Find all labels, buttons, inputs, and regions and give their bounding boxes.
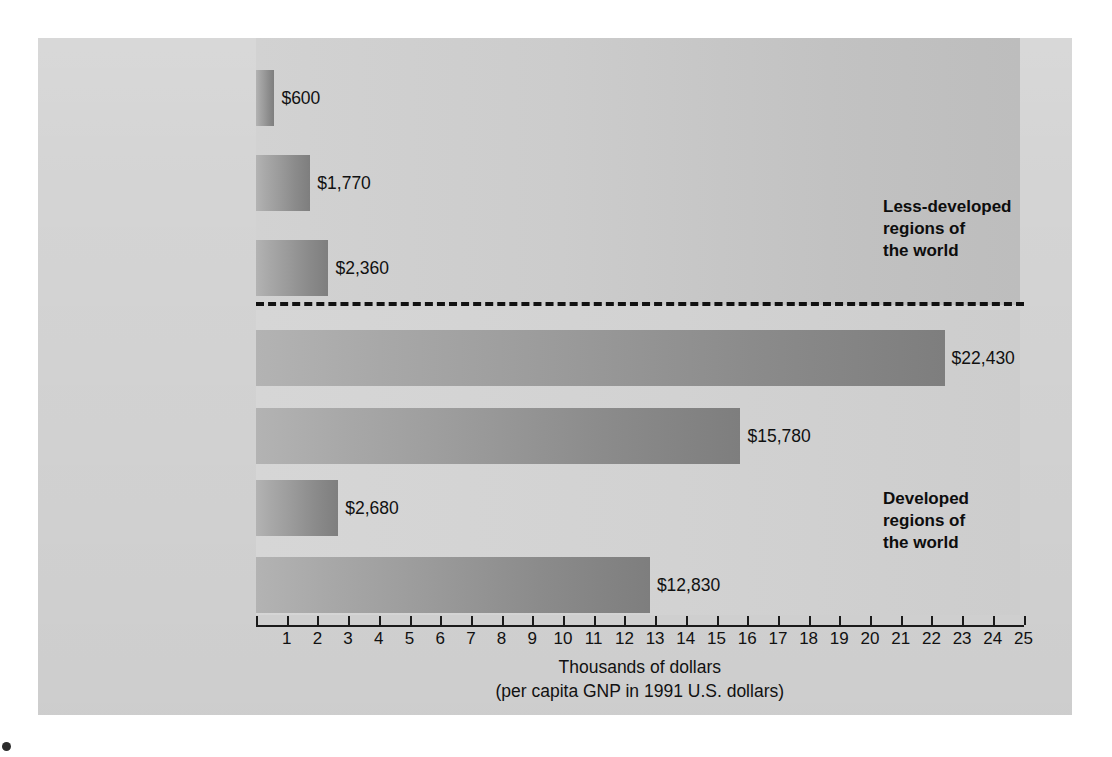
- x-axis-tick-label: 25: [1004, 629, 1044, 649]
- x-axis-tick: [287, 616, 289, 625]
- bar-value-label: $22,430: [952, 348, 1015, 369]
- x-axis-tick: [839, 616, 841, 625]
- x-axis-tick: [379, 616, 381, 625]
- x-axis-caption-line2: (per capita GNP in 1991 U.S. dollars): [256, 679, 1024, 703]
- bar-value-label: $12,830: [657, 575, 720, 596]
- x-axis-tick: [624, 616, 626, 625]
- x-axis-tick: [747, 616, 749, 625]
- x-axis-endcap-left: [256, 616, 258, 627]
- x-axis-tick: [655, 616, 657, 625]
- x-axis-tick: [717, 616, 719, 625]
- bar: [256, 480, 338, 536]
- bar-value-label: $2,360: [335, 258, 389, 279]
- x-axis-caption: Thousands of dollars (per capita GNP in …: [256, 655, 1024, 703]
- bar: [256, 70, 274, 126]
- x-axis-tick: [993, 616, 995, 625]
- bar-value-label: $2,680: [345, 498, 399, 519]
- annotation-developed: Developed regions of the world: [883, 488, 969, 554]
- chart-panel: Africa$600Asia and the Middle East$1,770…: [38, 38, 1072, 715]
- x-axis-tick: [563, 616, 565, 625]
- x-axis-tick: [410, 616, 412, 625]
- bar: [256, 240, 328, 296]
- x-axis-tick: [870, 616, 872, 625]
- x-axis-tick: [686, 616, 688, 625]
- x-axis-tick: [962, 616, 964, 625]
- plot-area: Africa$600Asia and the Middle East$1,770…: [38, 38, 1072, 715]
- x-axis-line: [256, 625, 1024, 627]
- x-axis-tick: [532, 616, 534, 625]
- bar-value-label: $1,770: [317, 173, 371, 194]
- x-axis-tick: [778, 616, 780, 625]
- bar-value-label: $15,780: [747, 426, 810, 447]
- x-axis-tick: [348, 616, 350, 625]
- bar-value-label: $600: [281, 88, 320, 109]
- x-axis-tick: [317, 616, 319, 625]
- x-axis-tick: [809, 616, 811, 625]
- x-axis-tick: [594, 616, 596, 625]
- x-axis-tick: [502, 616, 504, 625]
- x-axis-tick: [1024, 616, 1026, 625]
- bar: [256, 557, 650, 613]
- bar: [256, 408, 740, 464]
- x-axis-tick: [931, 616, 933, 625]
- region-divider-dashed-line: [256, 302, 1024, 306]
- x-axis-tick: [901, 616, 903, 625]
- x-axis-tick: [440, 616, 442, 625]
- x-axis-caption-line1: Thousands of dollars: [256, 655, 1024, 679]
- page-corner-mark: [2, 742, 11, 751]
- annotation-less-developed: Less-developed regions of the world: [883, 196, 1012, 262]
- bar: [256, 155, 310, 211]
- x-axis-tick: [471, 616, 473, 625]
- bar: [256, 330, 945, 386]
